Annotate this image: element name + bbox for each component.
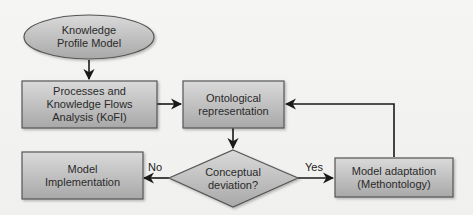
node-conceptual-deviation-shape [169,150,298,207]
edge-adaptation-to-ontological [286,104,394,157]
node-kofi-analysis-shape [22,81,157,128]
node-model-implementation-shape [22,152,143,199]
flowchart-graphics [0,0,473,215]
edge-label-no: No [148,161,162,173]
edge-label-yes: Yes [305,161,323,173]
node-knowledge-profile-model-shape [24,15,154,59]
node-model-adaptation-shape [335,158,453,197]
node-ontological-representation-shape [183,81,284,128]
flowchart-canvas: Knowledge Profile Model Processes and Kn… [0,0,473,215]
